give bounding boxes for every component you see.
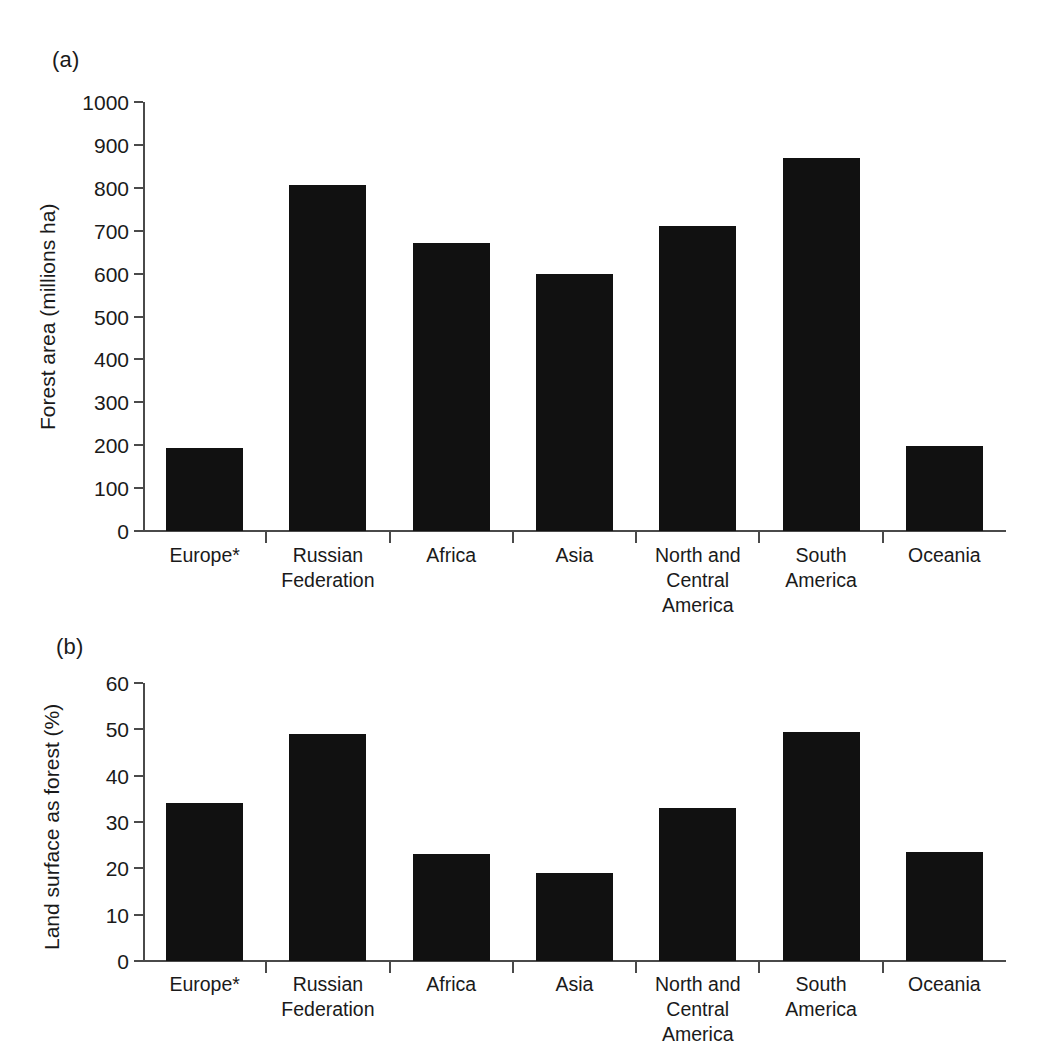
bar [659, 808, 736, 961]
panel-b-y-axis-line [143, 683, 145, 961]
y-tick-label: 10 [106, 904, 129, 925]
y-tick-label: 30 [106, 812, 129, 833]
figure-forest-area-and-cover: (a) Forest area (millions ha) 0100200300… [0, 0, 1054, 1046]
y-tick-label: 20 [106, 858, 129, 879]
y-tick-label: 500 [94, 306, 129, 327]
bar [906, 852, 983, 961]
panel-b-y-axis-title: Land surface as forest (%) [40, 704, 64, 950]
bar [166, 803, 243, 961]
x-tick [882, 531, 884, 543]
bar [659, 226, 736, 531]
y-tick [134, 444, 143, 446]
y-tick-label: 700 [94, 220, 129, 241]
y-tick-label: 200 [94, 435, 129, 456]
x-tick [265, 531, 267, 543]
bar [289, 734, 366, 961]
y-tick-label: 1000 [82, 92, 129, 113]
panel-a-plot-area: 01002003004005006007008009001000 [143, 102, 1006, 531]
panel-b: (b) Land surface as forest (%) 010203040… [0, 620, 1054, 1046]
bar [536, 274, 613, 531]
bar [906, 446, 983, 531]
y-tick-label: 0 [117, 951, 129, 972]
bar [413, 854, 490, 961]
bar [413, 243, 490, 531]
y-tick [134, 821, 143, 823]
x-category-label: Oceania [863, 972, 1026, 997]
y-tick [134, 682, 143, 684]
y-tick-label: 60 [106, 673, 129, 694]
y-tick [134, 914, 143, 916]
y-tick-label: 40 [106, 765, 129, 786]
y-tick [134, 487, 143, 489]
panel-a-y-axis-title: Forest area (millions ha) [36, 204, 60, 430]
y-tick [134, 358, 143, 360]
y-tick [134, 230, 143, 232]
bar [289, 185, 366, 531]
y-tick-label: 50 [106, 719, 129, 740]
panel-a: (a) Forest area (millions ha) 0100200300… [0, 0, 1054, 620]
panel-a-tag: (a) [52, 47, 80, 73]
x-tick [389, 531, 391, 543]
y-tick [134, 101, 143, 103]
y-tick-label: 100 [94, 478, 129, 499]
y-tick [134, 960, 143, 962]
y-tick [134, 867, 143, 869]
bar [783, 732, 860, 961]
y-tick [134, 144, 143, 146]
x-tick [758, 531, 760, 543]
y-tick-label: 300 [94, 392, 129, 413]
bar [783, 158, 860, 531]
y-tick-label: 800 [94, 177, 129, 198]
y-tick [134, 316, 143, 318]
y-tick-label: 900 [94, 134, 129, 155]
panel-b-plot-area: 0102030405060 [143, 683, 1006, 961]
x-category-label: Oceania [863, 543, 1026, 568]
y-tick-label: 600 [94, 263, 129, 284]
y-tick [134, 728, 143, 730]
x-tick [635, 531, 637, 543]
y-tick-label: 400 [94, 349, 129, 370]
y-tick-label: 0 [117, 521, 129, 542]
x-tick [512, 531, 514, 543]
bar [166, 448, 243, 531]
y-tick [134, 530, 143, 532]
bar [536, 873, 613, 961]
panel-b-tag: (b) [56, 634, 84, 660]
y-tick [134, 187, 143, 189]
y-tick [134, 401, 143, 403]
y-tick [134, 775, 143, 777]
panel-a-y-axis-line [143, 102, 145, 531]
y-tick [134, 273, 143, 275]
